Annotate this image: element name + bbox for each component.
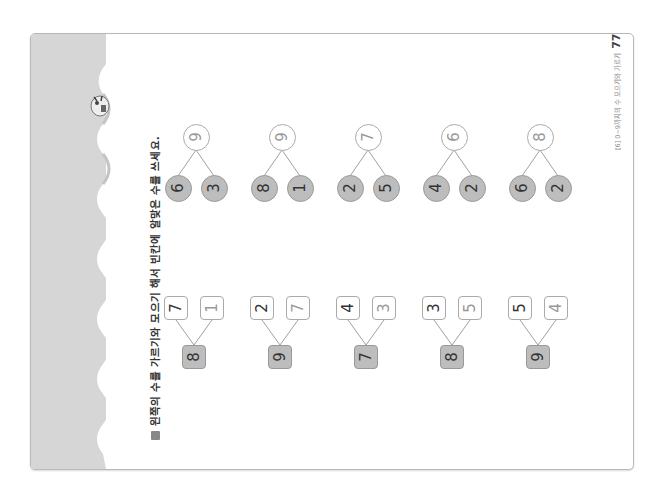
connector-lines [0,0,666,497]
whole-box: 9 [526,345,550,369]
number-value: 5 [511,303,529,313]
number-value: 9 [529,352,547,362]
number-value: 4 [547,303,565,313]
part-box: 5 [508,296,532,320]
answer-box[interactable]: 4 [544,296,568,320]
